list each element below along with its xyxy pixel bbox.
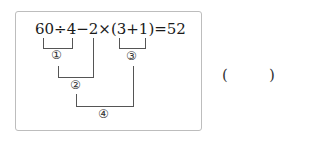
bracket-1-left: [43, 38, 44, 48]
bracket-4-left: [76, 94, 77, 106]
bracket-4-right: [133, 66, 134, 106]
math-expression: 60÷4−2×(3+1)=52: [35, 20, 186, 38]
step-label-1: ①: [51, 50, 62, 61]
answer-close-paren: ): [269, 66, 275, 84]
step-label-3: ③: [126, 51, 137, 62]
bracket-2-left: [58, 66, 59, 77]
bracket-3-right: [145, 38, 146, 48]
bracket-2-right: [93, 38, 94, 77]
bracket-1-right: [72, 38, 73, 48]
answer-open-paren: (: [222, 66, 228, 84]
step-label-4: ④: [98, 109, 109, 120]
bracket-3-left: [119, 38, 120, 48]
step-label-2: ②: [70, 80, 81, 91]
answer-blank[interactable]: [232, 66, 266, 84]
